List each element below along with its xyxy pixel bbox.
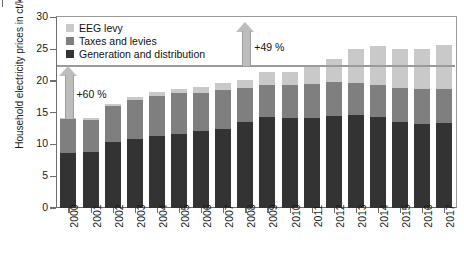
bar-segment-taxes-and-levies bbox=[105, 106, 121, 142]
corner-tick-mark bbox=[2, 0, 3, 7]
annotation-label: +60 % bbox=[76, 88, 106, 100]
stacked-bar[interactable] bbox=[282, 72, 298, 208]
bar-segment-taxes-and-levies bbox=[259, 85, 275, 117]
stacked-bar[interactable] bbox=[326, 59, 342, 208]
bar-segment-generation-and-distribution bbox=[392, 122, 408, 208]
stacked-bar[interactable] bbox=[392, 49, 408, 208]
bar-segment-generation-and-distribution bbox=[304, 118, 320, 208]
bar-column bbox=[433, 17, 455, 208]
bar-segment-taxes-and-levies bbox=[60, 119, 76, 153]
legend-swatch-taxes-icon bbox=[66, 37, 74, 45]
bar-segment-taxes-and-levies bbox=[370, 85, 386, 117]
stacked-bar[interactable] bbox=[348, 49, 364, 208]
bar-segment-generation-and-distribution bbox=[149, 136, 165, 208]
x-label-cell: 2004 bbox=[146, 214, 168, 260]
y-axis-tick-label: 10 bbox=[30, 137, 48, 149]
stacked-bar[interactable] bbox=[149, 92, 165, 208]
x-label-cell: 2002 bbox=[102, 214, 124, 260]
bar-column bbox=[389, 17, 411, 208]
x-label-cell: 2001 bbox=[80, 214, 102, 260]
chart-legend: EEG levy Taxes and levies Generation and… bbox=[62, 19, 211, 63]
bar-segment-generation-and-distribution bbox=[105, 142, 121, 208]
x-label-cell: 2010 bbox=[278, 214, 300, 260]
y-axis-tick bbox=[50, 207, 56, 208]
bar-segment-generation-and-distribution bbox=[60, 153, 76, 208]
stacked-bar[interactable] bbox=[60, 118, 76, 208]
bar-segment-taxes-and-levies bbox=[215, 90, 231, 129]
y-axis-tick-label: 20 bbox=[30, 74, 48, 86]
legend-label-generation: Generation and distribution bbox=[79, 48, 205, 60]
x-label-cell: 2005 bbox=[168, 214, 190, 260]
y-axis-tick bbox=[50, 176, 56, 177]
y-axis-title: Household electricity prices in ct/kWh bbox=[14, 0, 25, 166]
reference-line-22-3 bbox=[57, 65, 455, 66]
y-axis-tick-label: 25 bbox=[30, 42, 48, 54]
x-label-cell: 2013 bbox=[345, 214, 367, 260]
chart-figure: Household electricity prices in ct/kWh 0… bbox=[0, 0, 464, 262]
stacked-bar[interactable] bbox=[304, 61, 320, 208]
stacked-bar[interactable] bbox=[237, 80, 253, 208]
bar-segment-generation-and-distribution bbox=[237, 122, 253, 208]
bar-segment-generation-and-distribution bbox=[83, 152, 99, 208]
bar-segment-eeg-levy bbox=[392, 49, 408, 88]
y-axis-tick bbox=[50, 49, 56, 50]
legend-item-generation: Generation and distribution bbox=[66, 47, 205, 60]
stacked-bar[interactable] bbox=[193, 87, 209, 208]
legend-swatch-generation-icon bbox=[66, 50, 74, 58]
bar-segment-eeg-levy bbox=[326, 59, 342, 82]
x-label-cell: 2017 bbox=[433, 214, 455, 260]
bar-segment-taxes-and-levies bbox=[392, 88, 408, 122]
legend-label-eeg: EEG levy bbox=[79, 22, 123, 34]
legend-swatch-eeg-icon bbox=[66, 24, 74, 32]
stacked-bar[interactable] bbox=[370, 46, 386, 208]
x-label-cell: 2007 bbox=[212, 214, 234, 260]
y-axis-tick bbox=[50, 144, 56, 145]
stacked-bar[interactable] bbox=[105, 104, 121, 208]
bar-segment-taxes-and-levies bbox=[282, 85, 298, 117]
bar-segment-taxes-and-levies bbox=[149, 96, 165, 136]
stacked-bar[interactable] bbox=[171, 89, 187, 208]
y-axis-tick-label: 30 bbox=[30, 10, 48, 22]
annotation-arrow-60-percent bbox=[59, 66, 77, 119]
x-label-cell: 2011 bbox=[301, 214, 323, 260]
bar-segment-taxes-and-levies bbox=[83, 120, 99, 152]
stacked-bar[interactable] bbox=[414, 49, 430, 208]
x-label-cell: 2009 bbox=[256, 214, 278, 260]
stacked-bar[interactable] bbox=[127, 97, 143, 208]
bar-segment-generation-and-distribution bbox=[326, 116, 342, 208]
bar-segment-generation-and-distribution bbox=[215, 129, 231, 208]
bar-segment-generation-and-distribution bbox=[259, 117, 275, 208]
bar-segment-taxes-and-levies bbox=[326, 82, 342, 116]
x-axis-tick-label: 2017 bbox=[444, 204, 456, 227]
stacked-bar[interactable] bbox=[436, 45, 452, 208]
bar-segment-eeg-levy bbox=[414, 49, 430, 90]
bar-segment-taxes-and-levies bbox=[193, 93, 209, 131]
bar-segment-taxes-and-levies bbox=[304, 84, 320, 118]
bar-segment-eeg-levy bbox=[259, 72, 275, 85]
y-axis-tick bbox=[50, 112, 56, 113]
bar-segment-taxes-and-levies bbox=[436, 89, 452, 123]
bar-segment-taxes-and-levies bbox=[348, 83, 364, 115]
stacked-bar[interactable] bbox=[259, 72, 275, 208]
bar-segment-generation-and-distribution bbox=[414, 124, 430, 208]
x-label-cell: 2016 bbox=[411, 214, 433, 260]
bar-column bbox=[345, 17, 367, 208]
bar-segment-taxes-and-levies bbox=[127, 100, 143, 139]
y-axis-tick bbox=[50, 80, 56, 81]
bar-segment-eeg-levy bbox=[237, 80, 253, 88]
bar-column bbox=[411, 17, 433, 208]
y-axis-tick-label: 0 bbox=[30, 201, 48, 213]
stacked-bar[interactable] bbox=[83, 118, 99, 208]
annotation-label: +49 % bbox=[254, 41, 284, 53]
stacked-bar[interactable] bbox=[215, 83, 231, 208]
bar-segment-eeg-levy bbox=[436, 45, 452, 89]
arrow-shaft bbox=[65, 75, 74, 119]
x-label-cell: 2014 bbox=[367, 214, 389, 260]
bar-segment-taxes-and-levies bbox=[237, 88, 253, 122]
bar-segment-generation-and-distribution bbox=[193, 131, 209, 208]
y-axis-tick bbox=[50, 17, 56, 18]
legend-label-taxes: Taxes and levies bbox=[79, 35, 157, 47]
annotation-arrow-49-percent bbox=[236, 22, 254, 66]
bar-segment-generation-and-distribution bbox=[171, 134, 187, 208]
y-axis-tick-label: 15 bbox=[30, 106, 48, 118]
